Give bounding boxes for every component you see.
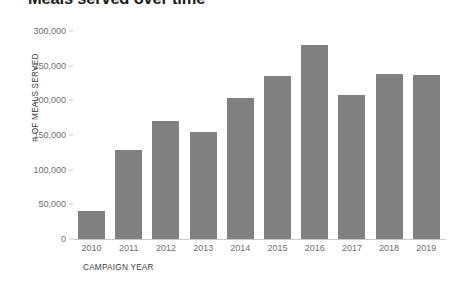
bar[interactable]: [301, 45, 328, 239]
x-axis-tick-label: 2010: [73, 243, 110, 253]
x-axis-title: CAMPAIGN YEAR: [83, 263, 154, 272]
y-axis-tick-label: 100,000: [33, 165, 66, 175]
bar[interactable]: [190, 132, 217, 239]
x-axis-tick-label: 2014: [222, 243, 259, 253]
bar[interactable]: [413, 75, 440, 239]
bar-slot: [222, 31, 259, 239]
bar-chart: Meals served over time # OF MEALS SERVED…: [0, 0, 466, 285]
bar-slot: [408, 31, 445, 239]
bar[interactable]: [115, 150, 142, 239]
x-axis-tick-label: 2019: [408, 243, 445, 253]
plot-area: [73, 31, 445, 239]
x-axis-tick-label: 2012: [147, 243, 184, 253]
x-axis-tick-label: 2013: [185, 243, 222, 253]
bar[interactable]: [227, 98, 254, 239]
x-axis-tick-label: 2016: [296, 243, 333, 253]
bar-slot: [73, 31, 110, 239]
bar[interactable]: [376, 74, 403, 239]
bar-slot: [147, 31, 184, 239]
x-axis-tick-label: 2018: [371, 243, 408, 253]
bar-slot: [333, 31, 370, 239]
bar-series: [73, 31, 445, 239]
y-axis-tick-label: 0: [61, 234, 66, 244]
x-axis-tick-label: 2011: [110, 243, 147, 253]
x-axis-tick-labels: 2010201120122013201420152016201720182019: [73, 243, 445, 253]
bar-slot: [185, 31, 222, 239]
y-axis-tick-label: 200,000: [33, 95, 66, 105]
y-axis-tick-labels: 050,000100,000150,000200,000250,000300,0…: [0, 0, 70, 285]
x-axis-line: [73, 239, 446, 240]
x-axis-tick-label: 2017: [333, 243, 370, 253]
y-axis-tick-label: 50,000: [38, 199, 66, 209]
bar[interactable]: [152, 121, 179, 239]
bar-slot: [296, 31, 333, 239]
x-axis-tick-label: 2015: [259, 243, 296, 253]
bar-slot: [371, 31, 408, 239]
bar[interactable]: [338, 95, 365, 239]
bar[interactable]: [78, 211, 105, 239]
y-axis-tick-label: 150,000: [33, 130, 66, 140]
y-axis-tick-label: 300,000: [33, 26, 66, 36]
bar-slot: [259, 31, 296, 239]
bar-slot: [110, 31, 147, 239]
y-axis-tick-label: 250,000: [33, 61, 66, 71]
bar[interactable]: [264, 76, 291, 239]
